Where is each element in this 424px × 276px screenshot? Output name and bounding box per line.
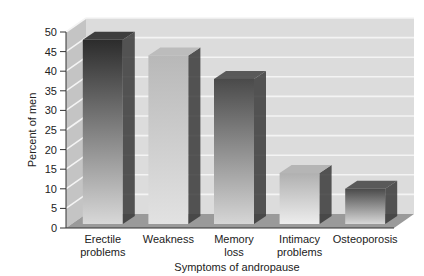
y-tick-label: 15 <box>45 163 57 175</box>
x-tick-label: Memoryloss <box>214 233 254 258</box>
y-tick-label: 50 <box>45 26 57 38</box>
x-tick-label: Intimacyproblems <box>277 233 323 258</box>
y-tick-label: 40 <box>45 65 57 77</box>
y-axis-title: Percent of men <box>26 93 38 168</box>
y-tick-label: 0 <box>51 222 57 234</box>
y-tick-label: 10 <box>45 183 57 195</box>
x-axis: ErectileproblemsWeaknessMemorylossIntima… <box>80 233 398 258</box>
x-axis-title: Symptoms of andropause <box>174 261 299 273</box>
x-tick-label: Osteoporosis <box>333 233 398 245</box>
bar-erectile-problems <box>83 32 135 224</box>
y-tick-label: 30 <box>45 104 57 116</box>
y-tick-label: 45 <box>45 46 57 58</box>
bar-chart: 05101520253035404550 ErectileproblemsWea… <box>0 0 424 276</box>
bar-memory-loss <box>214 71 266 224</box>
x-tick-label: Weakness <box>143 233 195 245</box>
bar-weakness <box>148 47 200 224</box>
y-tick-label: 35 <box>45 85 57 97</box>
y-tick-label: 5 <box>51 202 57 214</box>
bar-osteoporosis <box>345 181 397 224</box>
bar-intimacy-problems <box>280 165 332 224</box>
y-tick-label: 20 <box>45 144 57 156</box>
x-tick-label: Erectileproblems <box>80 233 126 258</box>
y-tick-label: 25 <box>45 124 57 136</box>
